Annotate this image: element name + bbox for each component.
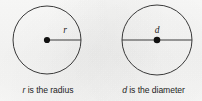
diameter-caption: d is the diameter [105,85,202,95]
circle-terminology-figure: r d r is the radius d is the diameter [0,0,202,101]
radius-caption: r is the radius [0,85,96,95]
radius-caption-text: is the radius [25,85,73,95]
radius-panel-group: r [13,6,81,74]
diameter-panel-group: d [122,5,192,75]
diameter-variable-label: d [155,25,160,35]
diameter-center-dot [154,37,161,44]
radius-center-dot [44,37,50,43]
radius-variable-label: r [63,25,67,35]
diameter-caption-text: is the diameter [127,85,185,95]
